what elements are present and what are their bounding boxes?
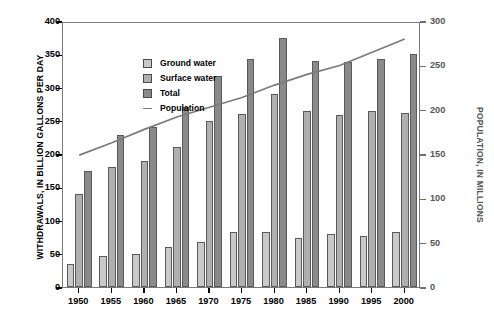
legend-swatch-surface-water-icon bbox=[143, 74, 152, 83]
legend: Ground water Surface water Total Populat… bbox=[143, 57, 216, 117]
legend-item-population: Population bbox=[143, 102, 216, 115]
y-tick-label-left: 200 bbox=[20, 150, 60, 159]
population-line bbox=[63, 23, 421, 289]
y-tick-label-left: 350 bbox=[20, 50, 60, 59]
y-tick-label-right: 50 bbox=[430, 239, 470, 248]
legend-item-surface-water: Surface water bbox=[143, 72, 216, 85]
y-axis-title-right: POPULATION, IN MILLIONS bbox=[475, 55, 485, 275]
legend-label: Total bbox=[160, 89, 180, 98]
legend-label: Population bbox=[160, 104, 204, 113]
legend-swatch-ground-water-icon bbox=[143, 59, 152, 68]
legend-item-total: Total bbox=[143, 87, 216, 100]
legend-label: Ground water bbox=[160, 59, 216, 68]
y-tick-label-right: 200 bbox=[430, 106, 470, 115]
legend-line-population-icon bbox=[143, 108, 152, 109]
y-tick-label-left: 250 bbox=[20, 117, 60, 126]
y-tick-label-left: 150 bbox=[20, 183, 60, 192]
y-tick-label-left: 300 bbox=[20, 84, 60, 93]
y-tick-label-right: 250 bbox=[430, 61, 470, 70]
y-tick-label-right: 300 bbox=[430, 17, 470, 26]
legend-item-ground-water: Ground water bbox=[143, 57, 216, 70]
y-tick-label-left: 0 bbox=[20, 283, 60, 292]
y-tick-label-left: 50 bbox=[20, 250, 60, 259]
y-tick-label-right: 150 bbox=[430, 150, 470, 159]
y-tick-label-right: 100 bbox=[430, 194, 470, 203]
x-tick-label: 2000 bbox=[381, 297, 427, 306]
legend-swatch-total-icon bbox=[143, 89, 152, 98]
y-tick-label-left: 400 bbox=[20, 17, 60, 26]
water-use-chart: WITHDRAWALS, IN BILLION GALLONS PER DAY … bbox=[0, 0, 494, 321]
y-tick-label-right: 0 bbox=[430, 283, 470, 292]
plot-area: Ground water Surface water Total Populat… bbox=[62, 22, 420, 288]
y-tick-label-left: 100 bbox=[20, 217, 60, 226]
legend-label: Surface water bbox=[160, 74, 216, 83]
